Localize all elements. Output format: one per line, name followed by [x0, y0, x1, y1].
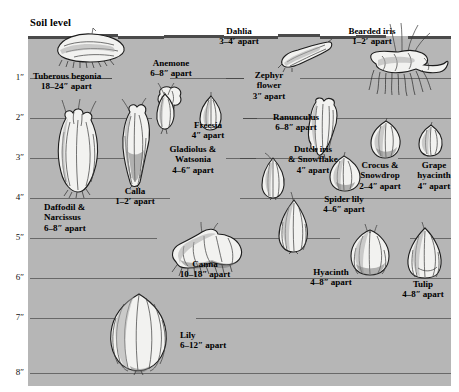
label-calla-name: Calla [105, 186, 165, 196]
label-calla: Calla 1–2′ apart [105, 186, 165, 207]
bulb-dahlia [278, 38, 334, 72]
label-crocus-snowdrop-name-1: Crocus & [346, 160, 414, 170]
label-gladiolus-watsonia-name-1: Gladiolus & [160, 144, 226, 154]
label-tulip-name: Tulip [392, 279, 454, 289]
label-hyacinth-name: Hyacinth [296, 267, 366, 277]
label-grape-hyacinth: Grape hyacinth 4″ apart [409, 160, 459, 191]
label-anemone-spacing: 6–8″ apart [131, 68, 211, 78]
depth-tick-2in: 2″ [2, 112, 24, 122]
label-crocus-snowdrop: Crocus & Snowdrop 2–4″ apart [346, 160, 414, 191]
label-grape-hyacinth-name-1: Grape [409, 160, 459, 170]
label-rule-dutch-iris [240, 158, 256, 159]
gridline-6in [30, 278, 151, 279]
bulb-crocus-snowdrop [368, 118, 404, 160]
label-ranunculus: Ranunculus 6–8″ apart [258, 112, 334, 133]
gridline-8in [30, 373, 451, 374]
label-gladiolus-watsonia-name-2: Watsonia [160, 154, 226, 164]
label-zephyr-flower-spacing: 3″ apart [242, 91, 296, 101]
depth-tick-4in: 4″ [2, 192, 24, 202]
soil-level-label: Soil level [30, 17, 71, 28]
label-daffodil-narcissus-spacing: 6–8″ apart [44, 223, 86, 233]
bulb-tuberous-begonia [52, 30, 130, 68]
label-hyacinth: Hyacinth 4–8″ apart [296, 267, 366, 288]
label-bearded-iris-spacing: 1–2′ apart [330, 36, 414, 46]
label-spider-lily-spacing: 4–6″ apart [308, 204, 380, 214]
label-dutch-iris-snowflake: Dutch iris & Snowflake 4″ apart [278, 144, 348, 175]
label-zephyr-flower-name-2: flower [242, 80, 296, 90]
depth-tick-1in: 1″ [2, 72, 24, 82]
depth-tick-6in: 6″ [2, 272, 24, 282]
depth-tick-3in: 3″ [2, 152, 24, 162]
label-canna-name: Canna [168, 259, 242, 269]
label-calla-spacing: 1–2′ apart [105, 196, 165, 206]
label-hyacinth-spacing: 4–8″ apart [296, 277, 366, 287]
label-zephyr-flower: Zephyr flower 3″ apart [242, 70, 296, 101]
bulb-calla [114, 96, 156, 188]
gridline-3in-c [398, 158, 451, 159]
label-bearded-iris: Bearded iris 1–2′ apart [330, 26, 414, 47]
label-rule-begonia [100, 78, 112, 79]
bulb-lily [104, 292, 174, 374]
label-grape-hyacinth-name-2: hyacinth [409, 170, 459, 180]
label-tulip: Tulip 4–8″ apart [392, 279, 454, 300]
soil-body-bottom-band [28, 373, 451, 386]
label-spider-lily-name: Spider lily [308, 194, 380, 204]
label-daffodil-narcissus-name-2: Narcissus [44, 212, 86, 222]
depth-tick-8in: 8″ [2, 367, 24, 377]
label-ranunculus-spacing: 6–8″ apart [258, 122, 334, 132]
label-bearded-iris-name: Bearded iris [330, 26, 414, 36]
bulb-daffodil-narcissus [48, 98, 110, 198]
label-anemone-name: Anemone [131, 58, 211, 68]
label-spider-lily: Spider lily 4–6″ apart [308, 194, 380, 215]
label-gladiolus-watsonia-spacing: 4–6″ apart [160, 165, 226, 175]
label-tuberous-begonia-name: Tuberous begonia [33, 71, 101, 81]
label-canna-spacing: 10–18″ apart [168, 269, 242, 279]
label-tuberous-begonia-spacing: 18–24″ apart [41, 81, 101, 91]
label-tulip-spacing: 4–8″ apart [392, 289, 454, 299]
gridline-5in [30, 238, 157, 239]
label-freesia-spacing: 4″ apart [176, 130, 240, 140]
depth-tick-5in: 5″ [2, 232, 24, 242]
label-ranunculus-name: Ranunculus [258, 112, 334, 122]
bulb-grape-hyacinth [416, 122, 446, 158]
label-tuberous-begonia: Tuberous begonia 18–24″ apart [33, 71, 101, 92]
label-crocus-snowdrop-spacing: 2–4″ apart [346, 181, 414, 191]
label-lily-name: Lily [180, 330, 226, 340]
label-daffodil-narcissus: Daffodil & Narcissus 6–8″ apart [44, 202, 86, 233]
label-dutch-iris-snowflake-name-2: & Snowflake [278, 154, 348, 164]
bulb-planting-depth-chart: Soil level 1″ 2″ 3″ 4″ 5″ 6″ 7″ 8″ [0, 0, 459, 392]
label-grape-hyacinth-spacing: 4″ apart [409, 181, 459, 191]
label-lily: Lily 6–12″ apart [180, 330, 226, 351]
label-anemone: Anemone 6–8″ apart [131, 58, 211, 79]
label-dahlia: Dahlia 3–4′ apart [206, 26, 272, 47]
label-dahlia-name: Dahlia [206, 26, 272, 36]
label-dahlia-spacing: 3–4′ apart [206, 36, 272, 46]
label-daffodil-narcissus-name-1: Daffodil & [44, 202, 86, 212]
label-gladiolus-watsonia: Gladiolus & Watsonia 4–6″ apart [160, 144, 226, 175]
bulb-tulip [404, 222, 446, 280]
depth-tick-7in: 7″ [2, 312, 24, 322]
label-canna: Canna 10–18″ apart [168, 259, 242, 280]
gridline-7in-b [196, 318, 451, 319]
label-zephyr-flower-name-1: Zephyr [242, 70, 296, 80]
label-dutch-iris-snowflake-name-1: Dutch iris [278, 144, 348, 154]
label-rule-ranunculus [243, 118, 257, 119]
label-freesia-name: Freesia [176, 120, 240, 130]
label-crocus-snowdrop-name-2: Snowdrop [346, 170, 414, 180]
label-dutch-iris-snowflake-spacing: 4″ apart [278, 165, 348, 175]
label-lily-spacing: 6–12″ apart [180, 340, 226, 350]
label-freesia: Freesia 4″ apart [176, 120, 240, 141]
